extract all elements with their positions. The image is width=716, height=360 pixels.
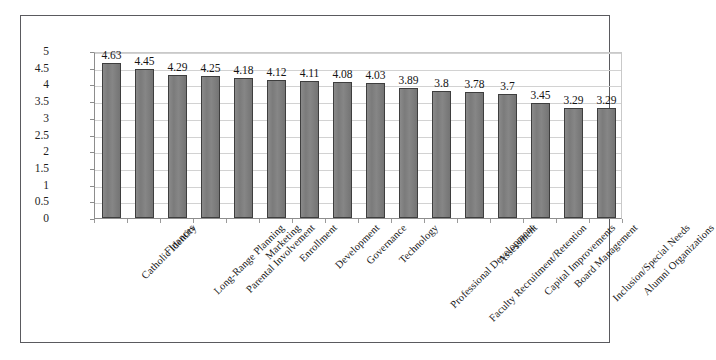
bar[interactable]: 3.8 xyxy=(432,51,451,218)
x-axis-tick-mark xyxy=(622,219,623,223)
bar-rect xyxy=(564,108,583,218)
bar-rect xyxy=(531,103,550,218)
x-axis-tick-mark xyxy=(325,219,326,223)
bar[interactable]: 4.25 xyxy=(201,51,220,218)
y-axis-tick-label: 0.5 xyxy=(9,196,49,207)
bar-rect xyxy=(366,83,385,218)
bar-rect xyxy=(399,88,418,218)
y-axis-tick-label: 1 xyxy=(9,180,49,191)
bar[interactable]: 4.63 xyxy=(102,51,121,218)
x-axis-category-label: Assessment xyxy=(495,222,539,266)
bar[interactable]: 3.78 xyxy=(465,51,484,218)
x-axis-tick-mark xyxy=(193,219,194,223)
x-axis-tick-mark xyxy=(358,219,359,223)
bar-rect xyxy=(597,108,616,218)
bar[interactable]: 4.18 xyxy=(234,51,253,218)
bar[interactable]: 3.7 xyxy=(498,51,517,218)
bar[interactable]: 3.29 xyxy=(597,51,616,218)
x-axis-tick-mark xyxy=(94,219,95,223)
x-axis-tick-mark xyxy=(160,219,161,223)
bar-rect xyxy=(432,91,451,218)
figure-frame: 00.511.522.533.544.55 4.634.454.294.254.… xyxy=(20,15,610,343)
bar-rect xyxy=(102,63,121,218)
x-axis-tick-mark xyxy=(127,219,128,223)
x-axis-tick-mark xyxy=(589,219,590,223)
x-axis-category-label: Finances xyxy=(162,222,197,257)
x-axis-tick-mark xyxy=(556,219,557,223)
x-axis-tick-mark xyxy=(391,219,392,223)
bar-rect xyxy=(465,92,484,218)
bar-rect xyxy=(498,94,517,218)
x-axis-tick-mark xyxy=(490,219,491,223)
bar-rect xyxy=(300,81,319,218)
bar[interactable]: 4.08 xyxy=(333,51,352,218)
y-axis-tick-label: 4 xyxy=(9,79,49,90)
y-axis-tick-label: 5 xyxy=(9,46,49,57)
x-axis-tick-mark xyxy=(523,219,524,223)
y-axis-tick-label: 0 xyxy=(9,213,49,224)
bar[interactable]: 3.45 xyxy=(531,51,550,218)
y-axis-tick-label: 3.5 xyxy=(9,96,49,107)
bar[interactable]: 4.12 xyxy=(267,51,286,218)
bar-rect xyxy=(267,80,286,218)
y-axis-tick-label: 2.5 xyxy=(9,130,49,141)
bar-value-label: 3.29 xyxy=(586,94,628,106)
y-axis-tick-label: 2 xyxy=(9,146,49,157)
bar[interactable]: 3.29 xyxy=(564,51,583,218)
bar-rect xyxy=(201,76,220,218)
bar-rect xyxy=(333,82,352,218)
bar-rect xyxy=(168,75,187,218)
bar[interactable]: 4.29 xyxy=(168,51,187,218)
bar[interactable]: 3.89 xyxy=(399,51,418,218)
y-axis-tick-label: 3 xyxy=(9,113,49,124)
bar-rect xyxy=(135,69,154,218)
x-axis-tick-mark xyxy=(226,219,227,223)
x-axis-tick-mark xyxy=(259,219,260,223)
y-axis-tick-label: 4.5 xyxy=(9,63,49,74)
bar[interactable]: 4.03 xyxy=(366,51,385,218)
y-axis-tick-label: 1.5 xyxy=(9,163,49,174)
bar-rect xyxy=(234,78,253,218)
plot-area: 4.634.454.294.254.184.124.114.084.033.89… xyxy=(94,52,622,219)
x-axis-tick-mark xyxy=(457,219,458,223)
bar[interactable]: 4.11 xyxy=(300,51,319,218)
x-axis-tick-mark xyxy=(292,219,293,223)
x-axis-tick-mark xyxy=(424,219,425,223)
bar[interactable]: 4.45 xyxy=(135,51,154,218)
